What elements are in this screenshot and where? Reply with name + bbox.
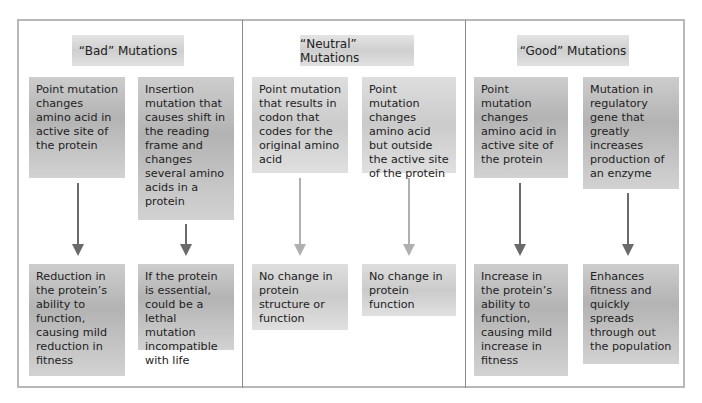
column-divider-1	[242, 20, 243, 388]
good-effect-2: Enhances fitness and quickly spreads thr…	[583, 264, 679, 364]
neutral-cause-2: Point mutation changes amino acid but ou…	[362, 77, 456, 173]
neutral-mutations-header: “Neutral” Mutations	[300, 35, 414, 66]
good-mutations-header: “Good” Mutations	[517, 35, 629, 66]
bad-effect-1: Reduction in the protein’s ability to fu…	[29, 264, 125, 376]
neutral-effect-2: No change in protein function	[362, 264, 456, 316]
good-effect-1: Increase in the protein’s ability to fun…	[474, 264, 568, 376]
column-divider-2	[465, 20, 466, 388]
bad-arrow-1	[77, 183, 79, 254]
neutral-arrow-2	[408, 178, 410, 254]
good-arrow-1	[519, 183, 521, 254]
neutral-effect-1: No change in protein structure or functi…	[252, 264, 348, 330]
bad-mutations-header: “Bad” Mutations	[72, 35, 184, 66]
bad-effect-2: If the protein is essential, could be a …	[138, 264, 234, 350]
bad-arrow-2	[185, 224, 187, 254]
good-cause-2: Mutation in regulatory gene that greatly…	[583, 77, 679, 189]
good-arrow-2	[627, 193, 629, 254]
bad-cause-2: Insertion mutation that causes shift in …	[138, 77, 234, 220]
neutral-arrow-1	[299, 178, 301, 254]
neutral-cause-1: Point mutation that results in codon tha…	[252, 77, 348, 173]
bad-cause-1: Point mutation changes amino acid in act…	[29, 77, 125, 178]
good-cause-1: Point mutation changes amino acid in act…	[474, 77, 568, 178]
